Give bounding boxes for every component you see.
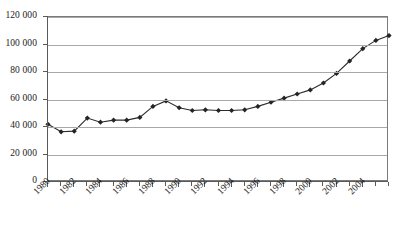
gridline: [48, 45, 387, 46]
plot-area: [47, 16, 388, 181]
y-axis-tick-label: 60 000: [0, 94, 43, 104]
gridline: [48, 100, 387, 101]
data-point-marker: [308, 87, 313, 92]
y-axis-line: [47, 16, 48, 182]
y-axis-tick-label: 80 000: [0, 66, 43, 76]
data-point-marker: [373, 38, 378, 43]
data-point-marker: [295, 91, 300, 96]
data-point-marker: [255, 104, 260, 109]
x-axis-tick: [388, 182, 389, 186]
data-point-marker: [111, 118, 116, 123]
y-axis-tick-label: 40 000: [0, 121, 43, 131]
data-point-marker: [229, 108, 234, 113]
data-point-marker: [242, 107, 247, 112]
gridline: [48, 17, 387, 18]
series-markers: [45, 33, 391, 134]
data-point-marker: [59, 129, 64, 134]
data-point-marker: [190, 108, 195, 113]
gridline: [48, 72, 387, 73]
line-chart: 120 000100 00080 00060 00040 00020 0000 …: [0, 0, 416, 230]
gridline: [48, 155, 387, 156]
data-point-marker: [216, 108, 221, 113]
x-axis-tick: [375, 182, 376, 186]
data-point-marker: [124, 118, 129, 123]
data-point-marker: [98, 120, 103, 125]
y-axis-tick-label: 100 000: [0, 39, 43, 49]
data-point-marker: [386, 33, 391, 38]
series-line: [48, 36, 389, 132]
y-axis-tick-label: 120 000: [0, 11, 43, 21]
gridline: [48, 127, 387, 128]
data-point-marker: [177, 105, 182, 110]
y-axis-tick-label: 20 000: [0, 149, 43, 159]
data-point-marker: [203, 107, 208, 112]
